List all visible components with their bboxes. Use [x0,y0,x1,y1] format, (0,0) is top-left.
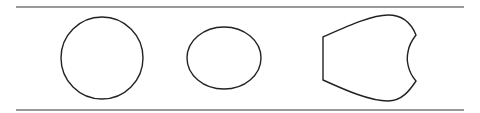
circle-shape [61,17,143,99]
notched-shape [323,15,416,101]
ellipse-shape [187,27,261,89]
diagram-canvas [0,0,480,113]
